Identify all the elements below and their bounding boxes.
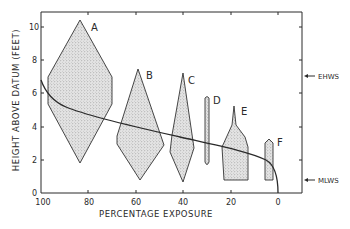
svg-text:2: 2: [32, 156, 37, 165]
x-tick-labels: 100 80 60 40 20 0: [35, 198, 280, 207]
mlws-marker: MLWS: [304, 177, 339, 185]
svg-text:20: 20: [226, 198, 236, 207]
label-f: F: [277, 137, 283, 148]
svg-text:100: 100: [35, 198, 50, 207]
ehws-marker: EHWS: [304, 73, 340, 81]
zonation-chart: A B C D E F EHWS MLWS 0 2 4 6 8 10 100 8…: [0, 0, 350, 229]
svg-text:6: 6: [32, 89, 37, 98]
svg-text:10: 10: [29, 23, 39, 32]
svg-text:40: 40: [178, 198, 188, 207]
svg-text:8: 8: [32, 56, 37, 65]
mlws-label: MLWS: [318, 177, 339, 185]
distribution-c: [170, 73, 194, 182]
svg-text:60: 60: [131, 198, 141, 207]
svg-text:0: 0: [275, 198, 280, 207]
y-axis-title: HEIGHT ABOVE DATUM (FEET): [11, 29, 21, 172]
x-axis-title: PERCENTAGE EXPOSURE: [99, 209, 213, 219]
label-c: C: [188, 75, 195, 86]
label-a: A: [91, 22, 98, 33]
label-d: D: [213, 95, 221, 106]
y-tick-labels: 0 2 4 6 8 10: [29, 23, 39, 198]
svg-text:0: 0: [32, 189, 37, 198]
distribution-d: [205, 97, 209, 165]
distribution-a: [48, 20, 112, 163]
svg-text:80: 80: [84, 198, 94, 207]
svg-text:4: 4: [32, 123, 37, 132]
label-b: B: [146, 70, 153, 81]
distribution-e: [222, 106, 248, 180]
ehws-label: EHWS: [318, 73, 340, 81]
label-e: E: [241, 106, 247, 117]
